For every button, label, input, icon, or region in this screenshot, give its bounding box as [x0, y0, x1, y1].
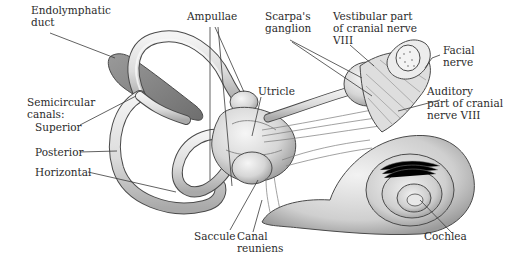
label-facial-nerve: Facial nerve: [443, 44, 475, 68]
label-auditory-nerve: Auditory part of cranial nerve VIII: [427, 85, 503, 121]
label-scarpas-ganglion: Scarpa's ganglion: [265, 10, 311, 34]
label-vestibular-nerve: Vestibular part of cranial nerve VIII: [333, 10, 417, 46]
label-posterior: Posterior: [35, 146, 84, 158]
label-endolymphatic-duct: Endolymphatic duct: [31, 4, 111, 28]
label-canal-reuniens: Canal reuniens: [237, 230, 283, 253]
label-utricle: Utricle: [258, 85, 295, 97]
label-ampullae: Ampullae: [187, 10, 237, 22]
label-cochlea: Cochlea: [424, 230, 467, 242]
label-horizontal: Horizontal: [35, 166, 91, 178]
label-saccule: Saccule: [194, 230, 236, 242]
label-semicircular-canals: Semicircular canals:: [27, 96, 95, 120]
label-superior: Superior: [35, 121, 82, 133]
inner-ear-diagram: Endolymphatic duct Ampullae Scarpa's gan…: [0, 0, 509, 253]
